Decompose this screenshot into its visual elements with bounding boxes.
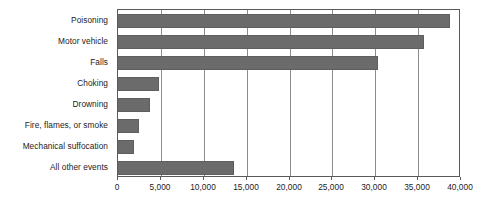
tick-mark <box>417 177 418 180</box>
tick-label: 35,000 <box>404 182 430 192</box>
bar <box>118 56 378 70</box>
tick-mark <box>117 177 118 180</box>
tick-label: 10,000 <box>190 182 216 192</box>
bar <box>118 98 150 112</box>
tick-label: 15,000 <box>233 182 259 192</box>
bar <box>118 161 234 175</box>
tick-mark <box>203 177 204 180</box>
tick-mark <box>460 177 461 180</box>
tick-mark <box>374 177 375 180</box>
tick-mark <box>246 177 247 180</box>
bar <box>118 140 134 154</box>
tick-label: 30,000 <box>361 182 387 192</box>
category-label: Falls <box>0 57 108 67</box>
bar <box>118 119 139 133</box>
category-label: Mechanical suffocation <box>0 141 108 151</box>
category-axis-labels: PoisoningMotor vehicleFallsChokingDrowni… <box>0 9 114 177</box>
bar-chart: PoisoningMotor vehicleFallsChokingDrowni… <box>0 0 487 209</box>
tick-mark <box>160 177 161 180</box>
plot-area <box>117 9 460 177</box>
tick-mark <box>289 177 290 180</box>
category-label: Fire, flames, or smoke <box>0 120 108 130</box>
tick-label: 5,000 <box>149 182 170 192</box>
tick-mark <box>331 177 332 180</box>
category-label: Motor vehicle <box>0 36 108 46</box>
category-label: All other events <box>0 162 108 172</box>
tick-label: 25,000 <box>318 182 344 192</box>
tick-label: 0 <box>115 182 120 192</box>
category-label: Poisoning <box>0 15 108 25</box>
bar <box>118 35 424 49</box>
value-axis: 05,00010,00015,00020,00025,00030,00035,0… <box>117 177 460 209</box>
category-label: Choking <box>0 78 108 88</box>
bar <box>118 14 450 28</box>
tick-label: 40,000 <box>447 182 473 192</box>
plot-inner <box>118 10 459 176</box>
category-label: Drowning <box>0 99 108 109</box>
bar <box>118 77 159 91</box>
tick-label: 20,000 <box>276 182 302 192</box>
